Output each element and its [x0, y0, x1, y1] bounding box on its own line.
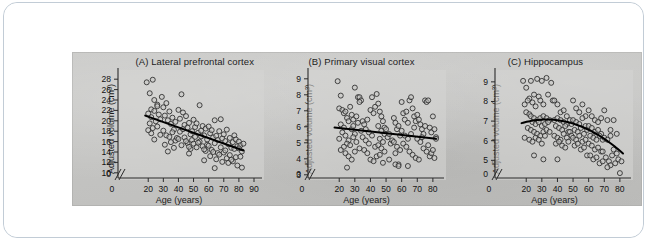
svg-text:5: 5 [296, 138, 301, 148]
svg-text:70: 70 [219, 184, 229, 194]
svg-text:40: 40 [366, 184, 376, 194]
svg-text:3: 3 [296, 170, 301, 180]
svg-text:0: 0 [487, 184, 492, 194]
panel-b-plot: 03456789020304050607080 [268, 52, 455, 206]
svg-text:40: 40 [174, 184, 184, 194]
svg-text:4: 4 [296, 154, 301, 164]
svg-text:20: 20 [334, 184, 344, 194]
svg-text:18: 18 [101, 126, 111, 136]
svg-text:5: 5 [483, 155, 488, 165]
svg-text:20: 20 [143, 184, 153, 194]
svg-text:6: 6 [296, 122, 301, 132]
svg-text:70: 70 [412, 184, 422, 194]
svg-text:8: 8 [483, 96, 488, 106]
panel-c-plot: 056789020304050607080 [455, 52, 642, 206]
svg-text:10: 10 [101, 168, 111, 178]
svg-text:60: 60 [584, 184, 594, 194]
svg-text:60: 60 [204, 184, 214, 194]
svg-text:20: 20 [521, 184, 531, 194]
svg-text:9: 9 [483, 77, 488, 87]
panel-lateral-prefrontal-cortex: (A) Lateral prefrontal cortex Adjusted v… [72, 52, 268, 206]
svg-text:9: 9 [296, 74, 301, 84]
svg-text:0: 0 [110, 184, 115, 194]
svg-text:7: 7 [483, 116, 488, 126]
svg-text:28: 28 [101, 74, 111, 84]
svg-text:70: 70 [599, 184, 609, 194]
svg-text:22: 22 [101, 105, 111, 115]
svg-text:6: 6 [483, 136, 488, 146]
svg-text:16: 16 [101, 137, 111, 147]
svg-text:30: 30 [350, 184, 360, 194]
panel-hippocampus: (C) Hippocampus Adjusted volume (cm³) Ag… [455, 52, 642, 206]
svg-text:80: 80 [234, 184, 244, 194]
page-frame: (A) Lateral prefrontal cortex Adjusted v… [3, 2, 644, 238]
panel-primary-visual-cortex: (B) Primary visual cortex Adjusted volum… [268, 52, 455, 206]
svg-text:26: 26 [101, 85, 111, 95]
svg-text:8: 8 [296, 90, 301, 100]
svg-text:60: 60 [397, 184, 407, 194]
svg-text:7: 7 [296, 106, 301, 116]
svg-text:40: 40 [553, 184, 563, 194]
svg-text:80: 80 [615, 184, 625, 194]
svg-text:0: 0 [300, 184, 305, 194]
svg-text:30: 30 [159, 184, 169, 194]
svg-text:80: 80 [428, 184, 438, 194]
svg-text:20: 20 [101, 116, 111, 126]
svg-text:50: 50 [381, 184, 391, 194]
svg-text:50: 50 [568, 184, 578, 194]
panel-a-plot: 01012141618202224262802030405060708090 [72, 52, 268, 206]
svg-text:50: 50 [189, 184, 199, 194]
svg-text:12: 12 [101, 157, 111, 167]
svg-text:30: 30 [537, 184, 547, 194]
svg-text:14: 14 [101, 147, 111, 157]
svg-text:24: 24 [101, 95, 111, 105]
svg-text:0: 0 [483, 169, 488, 179]
svg-text:90: 90 [249, 184, 259, 194]
figure-image: (A) Lateral prefrontal cortex Adjusted v… [72, 52, 642, 206]
